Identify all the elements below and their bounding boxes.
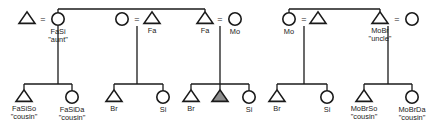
- marriage-symbol-m4: =: [301, 14, 306, 24]
- kin-label-g1n5: Fa: [201, 26, 211, 35]
- male-triangle-g1n9: [372, 12, 388, 24]
- female-circle-g1n6: [229, 13, 241, 25]
- kin-label-g2n7: Si: [246, 105, 253, 114]
- kinship-chart-canvas: FaSi"aunt"FaFaMoMoMoBr"uncle"FaSiSo"cous…: [0, 0, 435, 127]
- kinship-diagram: FaSi"aunt"FaFaMoMoMoBr"uncle"FaSiSo"cous…: [0, 0, 435, 127]
- female-circle-g2n2: [66, 91, 78, 103]
- marriage-symbol-m1: =: [40, 14, 45, 24]
- male-triangle-g1n1: [19, 12, 35, 24]
- female-circle-g1n3: [116, 13, 128, 25]
- kin-quote-g1n9: "uncle": [369, 34, 392, 43]
- marriage-symbol-m2: =: [134, 14, 139, 24]
- kin-label-g2n5: Br: [187, 104, 195, 113]
- male-triangle-g1n4: [144, 12, 160, 24]
- label-layer: FaSi"aunt"FaFaMoMoMoBr"uncle"FaSiSo"cous…: [11, 14, 427, 122]
- kin-label-g1n4: Fa: [148, 26, 158, 35]
- female-circle-g1n7: [283, 13, 295, 25]
- kin-label-g2n3: Br: [110, 104, 118, 113]
- male-triangle-g1n8: [310, 12, 326, 24]
- female-circle-g2n11: [406, 91, 418, 103]
- marriage-symbol-m3: =: [217, 14, 222, 24]
- male-triangle-g2n3: [106, 90, 122, 102]
- male-triangle-g2n1: [16, 90, 32, 102]
- female-circle-g1n2: [52, 13, 64, 25]
- female-circle-g2n7: [243, 91, 255, 103]
- kin-quote-g2n2: "cousin": [59, 113, 86, 122]
- kin-quote-g2n1: "cousin": [11, 112, 38, 121]
- kin-label-g1n7: Mo: [284, 27, 294, 36]
- kin-label-g2n8: Br: [273, 104, 281, 113]
- female-circle-g2n4: [157, 91, 169, 103]
- male-triangle-g2n5: [183, 90, 199, 102]
- kin-label-g2n4: Si: [160, 105, 167, 114]
- female-circle-g2n9: [321, 91, 333, 103]
- symbol-layer: [16, 12, 418, 103]
- kin-label-g2n9: Si: [324, 105, 331, 114]
- male-triangle-g2n8: [269, 90, 285, 102]
- male-triangle-g1n5: [197, 12, 213, 24]
- kin-quote-g1n2: "aunt": [48, 35, 68, 44]
- kin-quote-g2n11: "cousin": [399, 113, 426, 122]
- kin-label-g1n6: Mo: [230, 27, 240, 36]
- kin-quote-g2n10: "cousin": [351, 112, 378, 121]
- male-triangle-g2n10: [356, 90, 372, 102]
- female-circle-g1n10: [406, 13, 418, 25]
- marriage-symbol-m5: =: [394, 14, 399, 24]
- male-triangle-ego-g2n6: [212, 90, 228, 102]
